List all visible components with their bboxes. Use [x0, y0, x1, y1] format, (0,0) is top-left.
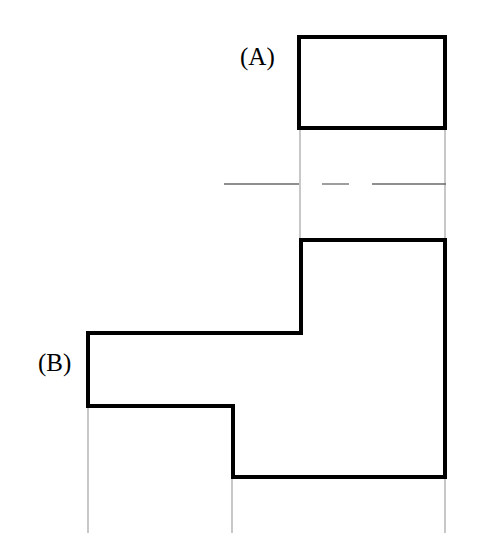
projection-lines-group [88, 128, 445, 533]
view-b-stepped-profile [88, 240, 445, 477]
view-a-label: (A) [240, 44, 275, 69]
view-b-label: (B) [38, 350, 71, 375]
view-a-rectangle [299, 37, 445, 128]
technical-drawing-canvas [0, 0, 482, 559]
